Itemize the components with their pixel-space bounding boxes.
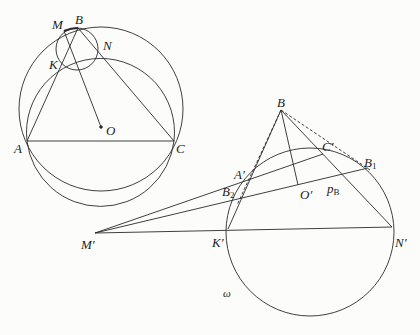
label-B2: B2: [222, 185, 234, 200]
label-N-prime: N′: [395, 236, 407, 249]
label-p-sub: B: [334, 187, 340, 197]
second-circle: [27, 58, 175, 206]
segment-MO: [64, 31, 101, 127]
label-B2-sub: 2: [230, 190, 235, 200]
segment-KN: [95, 227, 392, 233]
label-K-prime: K′: [212, 236, 224, 249]
label-B1-sub: 1: [372, 161, 377, 171]
label-C-prime: C′: [322, 140, 334, 153]
label-M-prime: M′: [81, 238, 95, 251]
label-B-right: B: [277, 96, 285, 109]
geometry-diagram: M B N K O A C B A′ C′ O′ B1 B2 pB K′ N′ …: [0, 0, 420, 335]
label-O-prime: O′: [300, 188, 312, 201]
label-O: O: [106, 124, 115, 137]
label-A-prime: A′: [234, 168, 245, 181]
segment-BO: [281, 110, 298, 185]
point-O: [100, 126, 103, 129]
dashed-tangent-left: [237, 110, 281, 205]
label-pB: pB: [327, 182, 340, 197]
omega-circle: [226, 148, 394, 316]
label-B1-main: B: [364, 155, 372, 170]
label-B: B: [75, 13, 83, 26]
line-M-B1: [95, 168, 368, 233]
circumcircle: [19, 27, 183, 191]
label-K: K: [49, 58, 58, 71]
diagram-svg: [0, 0, 420, 335]
segment-AB: [27, 28, 78, 141]
label-B2-main: B: [222, 184, 230, 199]
label-A: A: [14, 142, 22, 155]
label-omega: ω: [223, 288, 231, 299]
label-M: M: [52, 18, 63, 31]
label-B1: B1: [364, 156, 376, 171]
segment-BC: [78, 28, 174, 141]
line-M-C: [95, 154, 323, 233]
label-C: C: [176, 142, 185, 155]
label-N: N: [103, 39, 112, 52]
